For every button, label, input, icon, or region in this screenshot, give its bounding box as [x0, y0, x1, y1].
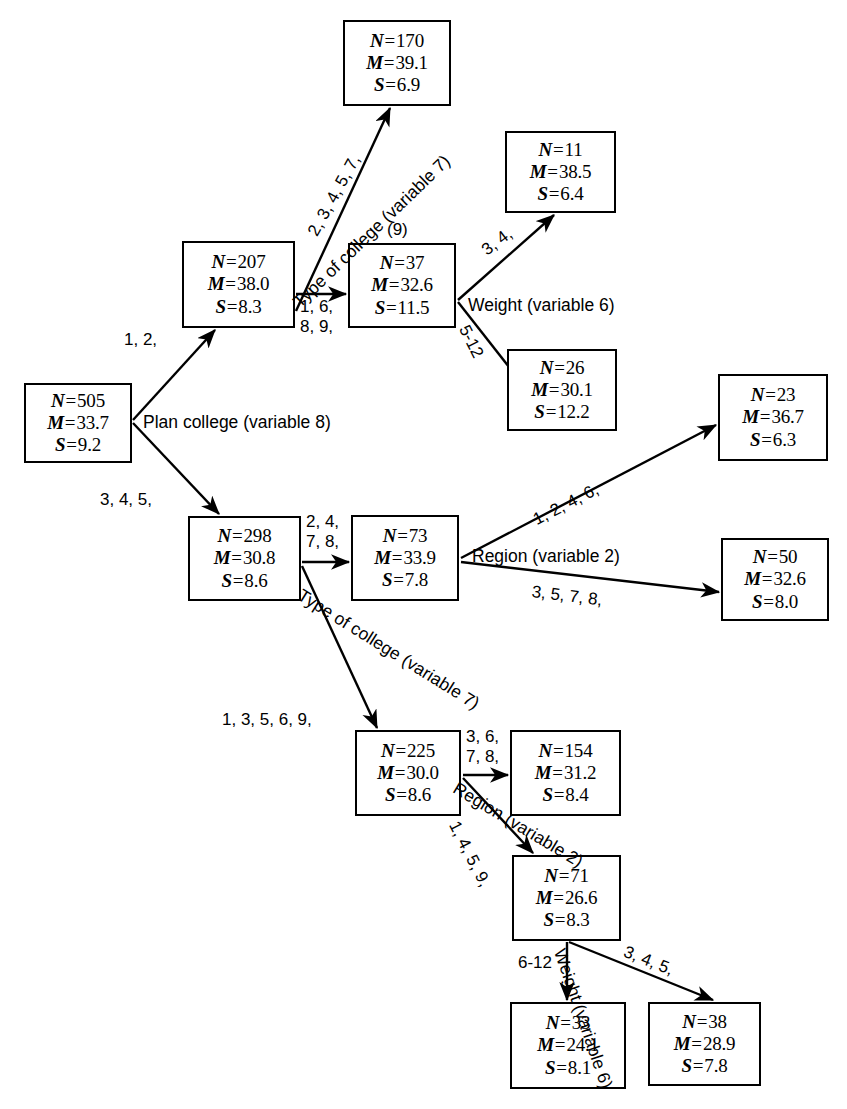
equals-sign: =: [546, 161, 559, 182]
node-stat-m: M=38.5: [530, 161, 592, 183]
edge-label-n298-73-label: 2, 4, 7, 8,: [306, 512, 339, 551]
node-stat-s: S=8.4: [542, 784, 588, 806]
stat-symbol: S: [55, 434, 65, 455]
annotation-annotation-9: (9): [387, 220, 408, 240]
node-n11[interactable]: N=11M=38.5S=6.4: [505, 131, 616, 213]
stat-value: 32.6: [773, 568, 805, 589]
stat-value: 6.3: [773, 429, 796, 450]
split-label-split-weight-upper: Weight (variable 6): [468, 295, 615, 316]
stat-symbol: S: [537, 183, 547, 204]
stat-symbol: S: [542, 784, 552, 805]
node-stat-s: S=7.8: [382, 569, 428, 591]
stat-symbol: M: [674, 1033, 691, 1054]
stat-symbol: N: [682, 1011, 696, 1032]
stat-value: 31.2: [564, 762, 596, 783]
node-n73[interactable]: N=73M=33.9S=7.8: [351, 515, 459, 601]
node-stat-s: S=6.4: [537, 183, 583, 205]
equals-sign: =: [385, 297, 398, 318]
stat-value: 33.9: [403, 547, 435, 568]
node-stat-s: S=6.3: [750, 429, 796, 451]
stat-symbol: S: [681, 1055, 691, 1076]
edge-label-n298-225-label: 1, 3, 5, 6, 9,: [222, 710, 312, 730]
node-stat-s: S=8.0: [752, 591, 798, 613]
equals-sign: =: [553, 784, 566, 805]
split-label-split-plan-college: Plan college (variable 8): [143, 412, 331, 433]
split-label-split-region-upper: Region (variable 2): [472, 546, 620, 567]
edge-label-n225-154-label: 3, 6, 7, 8,: [466, 727, 499, 766]
equals-sign: =: [391, 547, 404, 568]
node-stat-s: S=9.2: [55, 434, 101, 456]
node-n154[interactable]: N=154M=31.2S=8.4: [510, 730, 621, 816]
stat-value: 33.7: [76, 412, 108, 433]
node-n50[interactable]: N=50M=32.6S=8.0: [721, 538, 829, 621]
stat-value: 8.0: [775, 591, 798, 612]
stat-value: 7.8: [704, 1055, 727, 1076]
stat-value: 30.1: [560, 379, 592, 400]
stat-symbol: N: [380, 252, 394, 273]
equals-sign: =: [384, 74, 397, 95]
node-stat-m: M=38.0: [208, 273, 270, 295]
node-stat-m: M=33.7: [47, 412, 109, 434]
node-stat-n: N=207: [212, 251, 266, 273]
equals-sign: =: [554, 909, 567, 930]
stat-symbol: M: [208, 273, 225, 294]
stat-symbol: M: [537, 1034, 554, 1055]
node-stat-s: S=8.3: [215, 296, 261, 318]
node-n225[interactable]: N=225M=30.0S=8.6: [355, 730, 461, 816]
equals-sign: =: [226, 296, 239, 317]
stat-symbol: N: [546, 1012, 560, 1033]
node-n26[interactable]: N=26M=30.1S=12.2: [507, 349, 617, 431]
stat-value: 7.8: [405, 569, 428, 590]
node-n37[interactable]: N=37M=32.6S=11.5: [348, 243, 456, 328]
stat-symbol: M: [47, 412, 64, 433]
stat-symbol: M: [530, 161, 547, 182]
stat-symbol: M: [535, 762, 552, 783]
node-stat-n: N=38: [682, 1011, 727, 1033]
stat-value: 26.6: [565, 887, 597, 908]
stat-symbol: S: [215, 296, 225, 317]
equals-sign: =: [552, 740, 565, 761]
equals-sign: =: [396, 525, 409, 546]
stat-value: 9.2: [78, 434, 101, 455]
stat-symbol: S: [375, 297, 385, 318]
node-n38[interactable]: N=38M=28.9S=7.8: [648, 1002, 761, 1086]
stat-symbol: N: [381, 740, 395, 761]
stat-symbol: S: [534, 401, 544, 422]
node-stat-m: M=30.0: [377, 762, 439, 784]
node-stat-n: N=170: [370, 30, 424, 52]
node-stat-s: S=8.1: [545, 1057, 591, 1079]
node-stat-s: S=12.2: [534, 401, 589, 423]
node-n298[interactable]: N=298M=30.8S=8.6: [188, 516, 301, 601]
stat-symbol: S: [543, 909, 553, 930]
stat-symbol: N: [539, 740, 553, 761]
stat-value: 8.4: [565, 784, 588, 805]
stat-value: 11: [565, 139, 583, 160]
node-stat-m: M=32.6: [744, 568, 806, 590]
stat-symbol: N: [540, 357, 554, 378]
stat-value: 36.7: [771, 406, 803, 427]
node-root[interactable]: N=505M=33.7S=9.2: [24, 383, 132, 463]
stat-value: 505: [77, 390, 105, 411]
stat-value: 6.9: [397, 74, 420, 95]
stat-symbol: M: [744, 568, 761, 589]
equals-sign: =: [766, 546, 779, 567]
node-n71[interactable]: N=71M=26.6S=8.3: [512, 855, 621, 941]
node-n23[interactable]: N=23M=36.7S=6.3: [718, 374, 828, 461]
node-stat-n: N=26: [540, 357, 585, 379]
node-stat-n: N=505: [51, 390, 105, 412]
stat-symbol: M: [531, 379, 548, 400]
node-n170[interactable]: N=170M=39.1S=6.9: [343, 20, 451, 106]
stat-symbol: S: [374, 74, 384, 95]
equals-sign: =: [388, 274, 401, 295]
equals-sign: =: [759, 406, 772, 427]
stat-symbol: S: [382, 569, 392, 590]
stat-symbol: S: [221, 570, 231, 591]
stat-symbol: M: [366, 52, 383, 73]
node-stat-n: N=73: [383, 525, 428, 547]
equals-sign: =: [230, 547, 243, 568]
node-stat-n: N=298: [218, 525, 272, 547]
node-n207[interactable]: N=207M=38.0S=8.3: [182, 241, 295, 328]
equals-sign: =: [395, 740, 408, 761]
node-stat-s: S=7.8: [681, 1055, 727, 1077]
equals-sign: =: [545, 401, 558, 422]
